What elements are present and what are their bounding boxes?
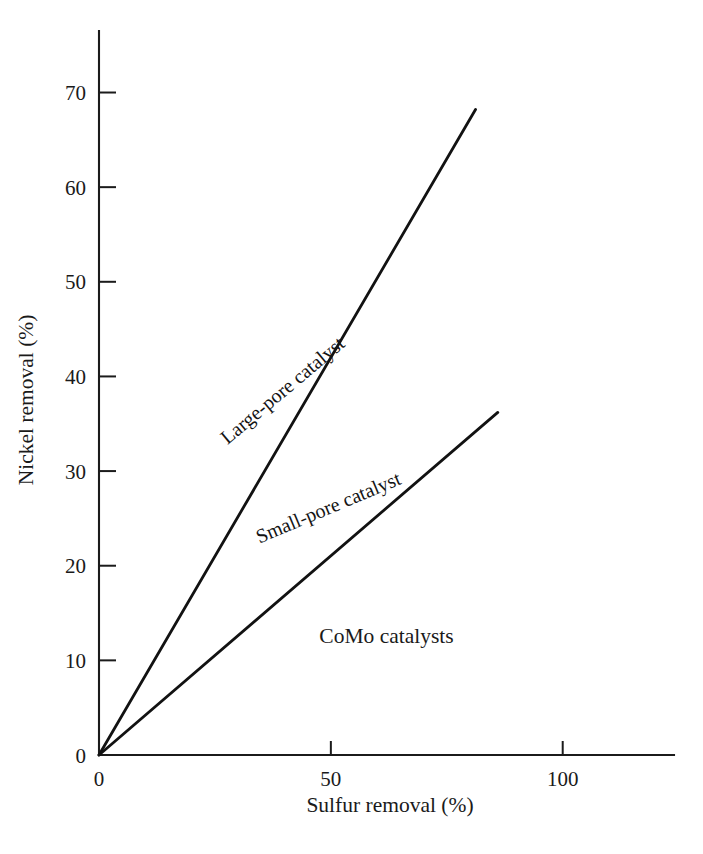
series-line-small-pore-catalyst — [99, 412, 498, 755]
x-tick-label: 0 — [94, 767, 105, 791]
y-tick-label: 40 — [65, 365, 86, 389]
x-tick-label: 50 — [320, 767, 341, 791]
y-tick-label: 30 — [65, 460, 86, 484]
x-axis-title: Sulfur removal (%) — [306, 793, 473, 817]
figure-container: 010203040506070 050100 Large-pore cataly… — [0, 0, 703, 854]
chart-annotation: CoMo catalysts — [319, 624, 453, 648]
line-chart: 010203040506070 050100 Large-pore cataly… — [0, 0, 703, 854]
y-tick-label: 50 — [65, 270, 86, 294]
series-group — [99, 110, 498, 755]
y-tick-label: 10 — [65, 649, 86, 673]
series-label-small-pore-catalyst: Small-pore catalyst — [252, 467, 404, 548]
annotations-group: CoMo catalysts — [319, 624, 453, 648]
series-line-large-pore-catalyst — [99, 110, 476, 755]
y-axis-ticks: 010203040506070 — [65, 81, 116, 767]
y-axis-title: Nickel removal (%) — [14, 315, 38, 486]
y-tick-label: 20 — [65, 554, 86, 578]
series-label-large-pore-catalyst: Large-pore catalyst — [216, 332, 350, 449]
x-axis-ticks: 050100 — [94, 741, 579, 791]
y-tick-label: 60 — [65, 176, 86, 200]
y-tick-label: 70 — [65, 81, 86, 105]
y-tick-label: 0 — [76, 744, 87, 768]
x-tick-label: 100 — [547, 767, 579, 791]
